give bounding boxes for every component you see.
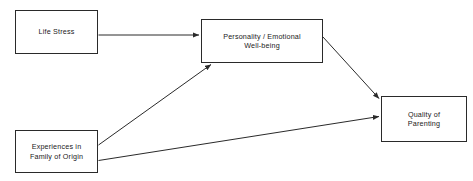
node-personality-label: Personality / Emotional Well-being (221, 32, 303, 51)
edge-experiences-to-personality (99, 65, 212, 146)
node-experiences-label: Experiences in Family of Origin (28, 142, 85, 161)
edge-personality-to-quality-parenting (323, 37, 379, 99)
node-life-stress[interactable]: Life Stress (15, 10, 98, 54)
node-life-stress-label: Life Stress (37, 27, 77, 36)
node-experiences[interactable]: Experiences in Family of Origin (15, 130, 98, 173)
node-quality-parenting[interactable]: Quality of Parenting (381, 96, 467, 142)
node-quality-parenting-label: Quality of Parenting (406, 110, 442, 129)
edge-experiences-to-quality-parenting (99, 117, 380, 161)
node-personality[interactable]: Personality / Emotional Well-being (201, 19, 323, 63)
diagram-canvas: Life Stress Personality / Emotional Well… (0, 0, 473, 181)
